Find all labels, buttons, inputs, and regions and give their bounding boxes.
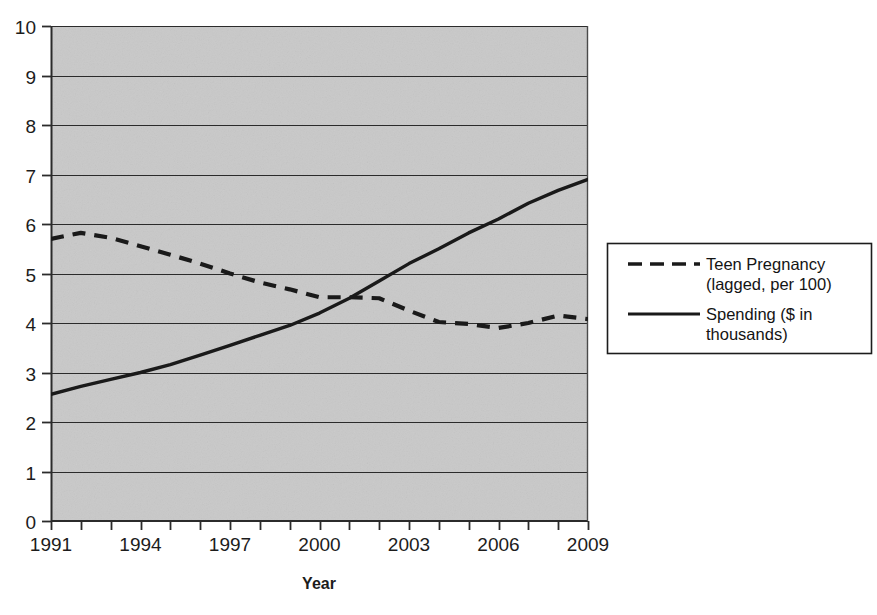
y-axis-tick-label: 9 <box>25 67 36 88</box>
x-axis-tick-labels: 1991199419972000200320062009 <box>30 534 609 555</box>
chart-legend: Teen Pregnancy (lagged, per 100) Spendin… <box>608 244 872 354</box>
y-axis-tick-label: 3 <box>25 364 36 385</box>
x-axis-ticks <box>52 521 589 530</box>
x-axis-tick-label: 2006 <box>477 534 519 555</box>
y-axis-tick-labels: 012345678910 <box>15 17 37 533</box>
x-axis-title: Year <box>302 575 336 592</box>
x-axis-tick-label: 2003 <box>388 534 430 555</box>
y-axis-tick-label: 7 <box>25 166 36 187</box>
line-chart: 012345678910 199119941997200020032006200… <box>0 0 877 615</box>
legend-label-line2: (lagged, per 100) <box>706 275 832 293</box>
y-axis-tick-label: 0 <box>25 512 36 533</box>
x-axis-tick-label: 2000 <box>298 534 340 555</box>
y-axis-tick-label: 2 <box>25 413 36 434</box>
x-axis-tick-label: 1997 <box>209 534 251 555</box>
x-axis: 1991199419972000200320062009 <box>30 521 609 555</box>
y-axis: 012345678910 <box>15 17 52 533</box>
x-axis-tick-label: 1991 <box>30 534 72 555</box>
plot-background <box>51 26 588 521</box>
legend-label-line1: Spending ($ in <box>706 305 812 323</box>
legend-label-line2: thousands) <box>706 325 788 343</box>
y-axis-tick-label: 5 <box>25 265 36 286</box>
y-axis-tick-label: 1 <box>25 463 36 484</box>
legend-label-line1: Teen Pregnancy <box>706 255 826 273</box>
y-axis-tick-label: 4 <box>25 314 36 335</box>
chart-figure: 012345678910 199119941997200020032006200… <box>0 0 877 615</box>
x-axis-tick-label: 2009 <box>567 534 609 555</box>
y-axis-ticks <box>42 27 51 522</box>
y-axis-tick-label: 10 <box>15 17 36 38</box>
y-axis-tick-label: 6 <box>25 215 36 236</box>
x-axis-tick-label: 1994 <box>119 534 162 555</box>
y-axis-tick-label: 8 <box>25 116 36 137</box>
